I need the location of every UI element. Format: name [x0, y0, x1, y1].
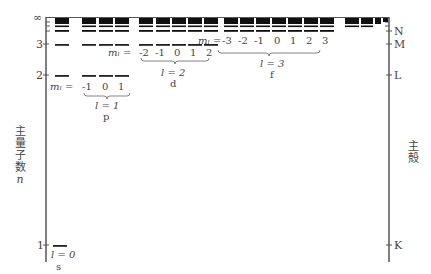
- left-axis-symbol: n: [14, 174, 26, 186]
- shell-M: M: [394, 39, 405, 50]
- p-ml-value: 0: [102, 81, 108, 92]
- p-brace: [84, 93, 130, 99]
- s-orbital-label: s: [56, 261, 61, 272]
- f-brace: [218, 50, 320, 56]
- f-orbital-label: f: [270, 69, 274, 80]
- p-ml-prefix: mₗ =: [50, 81, 73, 92]
- p-l-label: l = 1: [95, 100, 119, 111]
- shell-K: K: [394, 240, 402, 251]
- f-l-label: l = 3: [260, 58, 284, 69]
- tick-n1: 1: [37, 240, 44, 251]
- d-brace: [141, 58, 209, 64]
- f-ml-value: -2: [238, 35, 248, 46]
- tick-n2: 2: [36, 70, 43, 81]
- f-ml-value: -3: [222, 35, 232, 46]
- f-ml-value: -1: [254, 35, 264, 46]
- d-ml-prefix: mₗ =: [108, 47, 131, 58]
- right-axis-char: 殻: [407, 153, 419, 165]
- f-ml-value: 2: [306, 35, 312, 46]
- f-levels: [224, 18, 334, 32]
- tick-infinity: ∞: [33, 12, 42, 23]
- s-levels: [53, 18, 69, 247]
- right-axis-label: 主 殻: [407, 141, 419, 165]
- f-ml-value: 3: [322, 35, 328, 46]
- d-ml-value: 1: [190, 47, 196, 58]
- left-axis-label: 主 量 子 数 n: [14, 126, 26, 186]
- shell-L: L: [394, 70, 401, 81]
- p-orbital-label: p: [103, 111, 109, 122]
- p-ml-value: -1: [82, 81, 92, 92]
- higher-l-levels: [345, 18, 388, 27]
- s-l-label: l = 0: [51, 249, 75, 260]
- p-ml-value: 1: [118, 81, 124, 92]
- shell-N: N: [394, 26, 404, 37]
- tick-n3: 3: [36, 39, 43, 50]
- f-ml-value: 0: [274, 35, 280, 46]
- d-orbital-label: d: [170, 78, 176, 89]
- f-ml-value: 1: [290, 35, 296, 46]
- f-ml-prefix: mₗ =: [198, 35, 221, 46]
- d-ml-value: 2: [206, 47, 212, 58]
- d-l-label: l = 2: [161, 67, 185, 78]
- d-ml-value: -1: [155, 47, 165, 58]
- d-ml-value: -2: [139, 47, 149, 58]
- d-ml-value: 0: [174, 47, 180, 58]
